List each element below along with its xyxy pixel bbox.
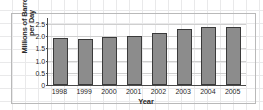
x-axis-tick-label: 2003 bbox=[171, 87, 196, 97]
bar-slot bbox=[172, 18, 197, 85]
y-axis-tick-label: 2.5 bbox=[36, 21, 45, 28]
bar bbox=[127, 36, 142, 85]
bar-slot bbox=[197, 18, 222, 85]
y-axis-title-line-2: per Day bbox=[28, 0, 35, 58]
bar-slot bbox=[147, 18, 172, 85]
bar-slot bbox=[48, 18, 73, 85]
plot-area: 00.51.01.52.02.5 bbox=[47, 18, 246, 86]
x-axis-tick-label: 2004 bbox=[196, 87, 221, 97]
bar bbox=[102, 37, 117, 85]
bar-chart: Millions of Barrels per Day 00.51.01.52.… bbox=[0, 0, 263, 110]
y-axis-tick-mark bbox=[46, 85, 48, 86]
y-axis-tick-label: 0 bbox=[41, 82, 45, 89]
bar-slot bbox=[73, 18, 98, 85]
bar-slot bbox=[98, 18, 123, 85]
bar bbox=[177, 29, 192, 85]
bar-slot bbox=[221, 18, 246, 85]
bar bbox=[201, 27, 216, 85]
y-axis-tick-label: 2.0 bbox=[36, 33, 45, 40]
y-axis-tick-label: 0.5 bbox=[36, 69, 45, 76]
bar bbox=[152, 33, 167, 85]
x-axis-tick-label: 2000 bbox=[97, 87, 122, 97]
x-axis-tick-labels: 19981999200020012002200320042005 bbox=[47, 87, 245, 97]
bar bbox=[53, 38, 68, 86]
bar bbox=[226, 27, 241, 85]
y-axis-tick-label: 1.5 bbox=[36, 45, 45, 52]
bar bbox=[78, 39, 93, 85]
x-axis-tick-label: 1999 bbox=[72, 87, 97, 97]
x-axis-tick-label: 2001 bbox=[121, 87, 146, 97]
x-axis-tick-label: 1998 bbox=[47, 87, 72, 97]
bar-slot bbox=[122, 18, 147, 85]
x-axis-tick-label: 2002 bbox=[146, 87, 171, 97]
y-axis-title: Millions of Barrels per Day bbox=[21, 0, 35, 58]
bar-series bbox=[48, 18, 246, 85]
x-axis-title: Year bbox=[47, 97, 245, 106]
x-axis-tick-label: 2005 bbox=[220, 87, 245, 97]
y-axis-tick-label: 1.0 bbox=[36, 57, 45, 64]
